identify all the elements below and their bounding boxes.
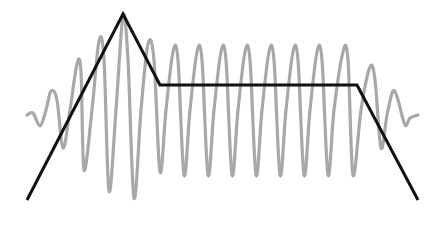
diagram-canvas (0, 0, 445, 232)
waveform-curve (27, 14, 418, 198)
envelope-line (27, 14, 418, 200)
adsr-diagram (0, 0, 445, 232)
